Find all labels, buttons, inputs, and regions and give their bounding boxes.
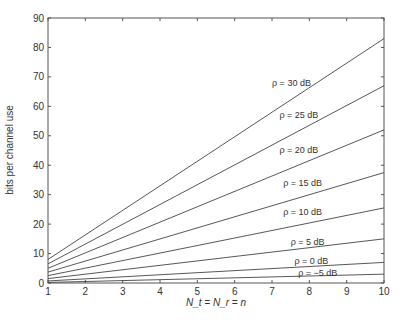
series-annotation: ρ = 0 dB bbox=[294, 256, 328, 266]
y-tick-label: 0 bbox=[38, 278, 44, 289]
series-annotation: ρ = −5 dB bbox=[298, 268, 337, 278]
y-tick-label: 10 bbox=[33, 248, 45, 259]
y-axis-label: bits per channel use bbox=[4, 105, 15, 195]
x-tick-label: 1 bbox=[45, 286, 51, 297]
series-line bbox=[48, 86, 384, 264]
y-tick-label: 40 bbox=[33, 160, 45, 171]
series-annotation: ρ = 5 dB bbox=[291, 237, 325, 247]
series-labels: ρ = 30 dBρ = 25 dBρ = 20 dBρ = 15 dBρ = … bbox=[272, 78, 337, 278]
series-line bbox=[48, 39, 384, 260]
x-tick-label: 5 bbox=[195, 286, 201, 297]
x-tick-label: 9 bbox=[344, 286, 350, 297]
y-tick-label: 70 bbox=[33, 71, 45, 82]
x-tick-label: 3 bbox=[120, 286, 126, 297]
y-tick-label: 60 bbox=[33, 101, 45, 112]
x-tick-label: 10 bbox=[378, 286, 390, 297]
axis-ticks: 123456789100102030405060708090 bbox=[33, 13, 390, 298]
x-tick-label: 6 bbox=[232, 286, 238, 297]
capacity-line-chart: 123456789100102030405060708090 ρ = 30 dB… bbox=[0, 0, 406, 326]
x-tick-label: 7 bbox=[269, 286, 275, 297]
y-tick-label: 90 bbox=[33, 13, 45, 24]
series-line bbox=[48, 130, 384, 268]
series-line bbox=[48, 173, 384, 273]
series-annotation: ρ = 20 dB bbox=[279, 145, 318, 155]
y-tick-label: 20 bbox=[33, 219, 45, 230]
series-annotation: ρ = 30 dB bbox=[272, 78, 311, 88]
x-axis-label: N_t = N_r = n bbox=[186, 297, 246, 308]
y-tick-label: 50 bbox=[33, 130, 45, 141]
y-tick-label: 30 bbox=[33, 189, 45, 200]
series-lines bbox=[48, 39, 384, 283]
series-annotation: ρ = 10 dB bbox=[283, 207, 322, 217]
y-tick-label: 80 bbox=[33, 42, 45, 53]
x-tick-label: 2 bbox=[83, 286, 89, 297]
x-tick-label: 4 bbox=[157, 286, 163, 297]
series-annotation: ρ = 15 dB bbox=[283, 178, 322, 188]
x-tick-label: 8 bbox=[307, 286, 313, 297]
series-annotation: ρ = 25 dB bbox=[279, 110, 318, 120]
